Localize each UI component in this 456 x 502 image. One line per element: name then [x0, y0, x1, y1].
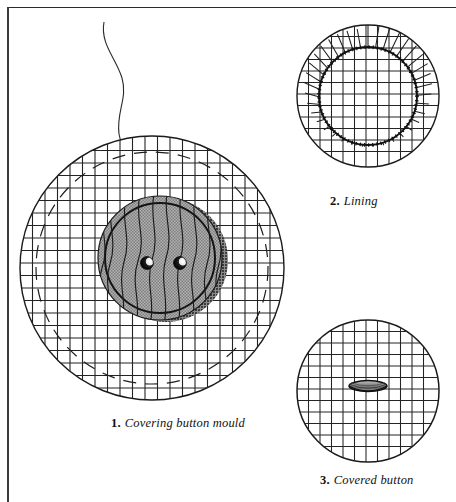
- figure-2-caption: 2. Lining: [330, 191, 378, 209]
- figure-lining: 2. Lining: [290, 18, 450, 178]
- thread-tail: [103, 22, 128, 150]
- button-shank: [349, 381, 387, 392]
- figure-3-number: 3.: [320, 473, 330, 487]
- figure-3-caption: 3. Covered button: [320, 470, 414, 488]
- button-mould-body: [98, 196, 222, 320]
- figure-covered-button: 3. Covered button: [290, 313, 450, 493]
- figure-2-number: 2.: [330, 194, 340, 208]
- figure-1-caption: 1. Covering button mould: [111, 413, 245, 431]
- mould-hole-right: [174, 257, 187, 270]
- figure-3-drawing: [290, 313, 450, 493]
- figure-2-drawing: [290, 18, 450, 178]
- figure-3-label: Covered button: [334, 473, 414, 487]
- figure-1-drawing: [0, 0, 320, 420]
- figure-1-label: Covering button mould: [125, 416, 245, 430]
- figure-covering-button-mould: 1. Covering button mould: [0, 0, 320, 420]
- mould-hole-left: [141, 257, 154, 270]
- illustration-page: 1. Covering button mould: [0, 0, 456, 502]
- figure-2-label: Lining: [344, 194, 378, 208]
- figure-1-number: 1.: [111, 416, 121, 430]
